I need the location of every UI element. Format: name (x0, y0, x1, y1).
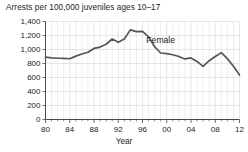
svg-text:12: 12 (235, 125, 244, 134)
svg-text:84: 84 (65, 125, 74, 134)
y-axis-tick-labels: 02004006008001,0001,2001,400 (20, 17, 41, 124)
svg-text:1,200: 1,200 (20, 31, 41, 40)
tick-marks (43, 22, 240, 124)
svg-text:1,400: 1,400 (20, 17, 41, 26)
svg-text:92: 92 (114, 125, 123, 134)
svg-text:04: 04 (187, 125, 196, 134)
svg-text:80: 80 (41, 125, 50, 134)
svg-text:600: 600 (27, 73, 41, 82)
chart-canvas: 02004006008001,0001,2001,400 80848892960… (0, 0, 248, 152)
x-axis-title: Year (0, 137, 248, 146)
svg-text:800: 800 (27, 59, 41, 68)
series-annotations: Female (146, 35, 175, 45)
svg-text:400: 400 (27, 87, 41, 96)
svg-text:88: 88 (90, 125, 99, 134)
x-axis-tick-labels: 808488929600040812 (41, 125, 244, 134)
svg-text:00: 00 (162, 125, 171, 134)
svg-text:Female: Female (146, 35, 175, 45)
svg-text:200: 200 (27, 101, 41, 110)
svg-text:08: 08 (211, 125, 220, 134)
svg-text:96: 96 (138, 125, 147, 134)
minor-gridlines (46, 22, 240, 120)
chart-container: Arrests per 100,000 juveniles ages 10–17… (0, 0, 248, 152)
svg-text:0: 0 (36, 115, 41, 124)
svg-text:1,000: 1,000 (20, 45, 41, 54)
